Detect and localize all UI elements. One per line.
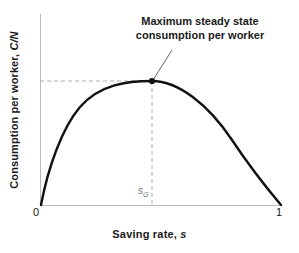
x-axis-title: Saving rate, s (0, 228, 299, 240)
sg-guide-label: sG (138, 185, 148, 198)
y-axis-title-symbol: C/N (8, 31, 20, 50)
x-tick-label-1: 1 (276, 206, 282, 218)
annotation-leader-line (153, 50, 172, 80)
x-tick-label-0: 0 (33, 206, 39, 218)
y-axis-title: Consumption per worker, C/N (8, 10, 20, 210)
x-axis-title-symbol: s (180, 228, 186, 240)
annotation-maximum-consumption: Maximum steady state consumption per wor… (110, 14, 290, 42)
sg-subscript: G (143, 191, 148, 198)
x-axis-title-text: Saving rate, (112, 228, 180, 240)
peak-marker-dot (149, 78, 155, 84)
y-axis-title-text: Consumption per worker, (8, 51, 20, 189)
consumption-saving-rate-chart: Maximum steady state consumption per wor… (0, 0, 299, 253)
consumption-curve (41, 81, 281, 205)
